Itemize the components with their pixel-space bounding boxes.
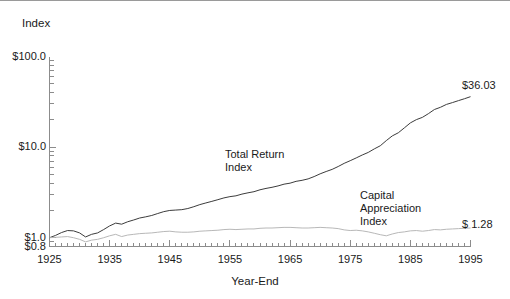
y-tick-label: $100.0	[0, 50, 46, 63]
y-tick-label: $0.8	[0, 240, 46, 253]
x-tick-label: 1995	[441, 253, 501, 266]
chart-figure: Index Year-End Total ReturnIndex Capital…	[0, 0, 510, 299]
x-axis-title: Year-End	[0, 275, 510, 288]
x-tick-label: 1925	[20, 253, 80, 266]
series-line	[50, 227, 471, 241]
x-tick-label: 1975	[320, 253, 380, 266]
y-tick-label: $10.0	[0, 140, 46, 153]
x-tick-label: 1945	[140, 253, 200, 266]
annotation-total-return-index: Total ReturnIndex	[225, 148, 284, 174]
x-tick-label: 1965	[260, 253, 320, 266]
x-tick-label: 1985	[380, 253, 440, 266]
end-label-capital-appreciation-index: $ 1.28	[462, 218, 493, 231]
annotation-capital-appreciation-index: CapitalAppreciationIndex	[360, 189, 421, 228]
x-tick-label: 1935	[80, 253, 140, 266]
end-label-total-return-index: $36.03	[462, 79, 496, 92]
x-tick-label: 1955	[200, 253, 260, 266]
